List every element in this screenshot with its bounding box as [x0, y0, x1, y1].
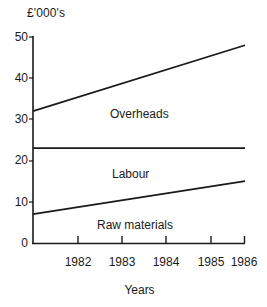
raw-materials-boundary-line — [33, 181, 245, 214]
x-tick-label-1982: 1982 — [56, 256, 100, 268]
x-tick-label-1983: 1983 — [100, 256, 144, 268]
chart-container: £'000's 50 40 30 20 10 0 Overheads Labou… — [0, 0, 267, 307]
x-tick-label-1986: 1986 — [222, 256, 266, 268]
overheads-boundary-line — [33, 45, 245, 111]
x-tick-label-1984: 1984 — [144, 256, 188, 268]
band-label-raw-materials: Raw materials — [97, 219, 173, 231]
band-label-labour: Labour — [112, 168, 149, 180]
x-axis-title: Years — [6, 283, 267, 297]
band-label-overheads: Overheads — [110, 108, 169, 120]
